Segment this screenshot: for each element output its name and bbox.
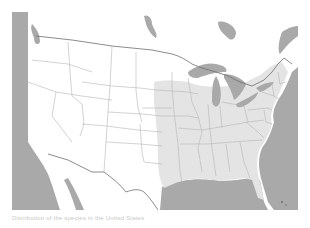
gulf-of-st-lawrence [279, 26, 298, 54]
puget-sound [31, 24, 40, 44]
us-map-svg [12, 12, 298, 210]
lake-winnipeg [144, 15, 157, 38]
north-lake [218, 22, 236, 40]
lake-superior [188, 63, 227, 78]
bahamas-dot [285, 204, 287, 206]
baja-water [28, 142, 60, 210]
gulf-of-mexico [160, 178, 268, 210]
lake-michigan [212, 76, 221, 107]
mexico-border [48, 154, 158, 210]
gulf-of-california [64, 178, 84, 210]
map-caption: Distribution of the species in the Unite… [12, 214, 302, 222]
range-map [12, 12, 298, 210]
pacific-ocean [12, 12, 28, 210]
bahamas-dot [281, 201, 283, 203]
